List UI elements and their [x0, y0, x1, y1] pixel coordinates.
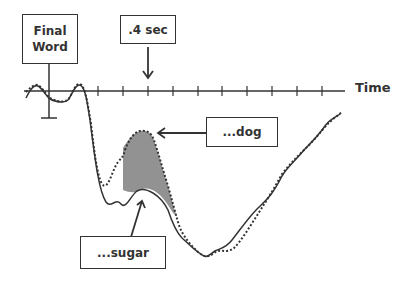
sugar-label: ...sugar — [80, 236, 166, 269]
dog-curve — [26, 84, 342, 256]
final-word-label: Final Word — [22, 14, 78, 64]
sugar-arrow — [131, 201, 142, 237]
dog-text: ...dog — [222, 124, 261, 140]
dog-label: ...dog — [206, 117, 278, 147]
time-marker-text: .4 sec — [128, 22, 167, 38]
time-marker-label: .4 sec — [120, 15, 176, 44]
time-axis-label: Time — [355, 80, 391, 95]
sugar-curve — [26, 85, 340, 257]
final-word-line2: Word — [32, 39, 68, 55]
n400-shaded-area — [123, 131, 177, 216]
sugar-text: ...sugar — [97, 245, 149, 261]
final-word-line1: Final — [33, 23, 66, 39]
